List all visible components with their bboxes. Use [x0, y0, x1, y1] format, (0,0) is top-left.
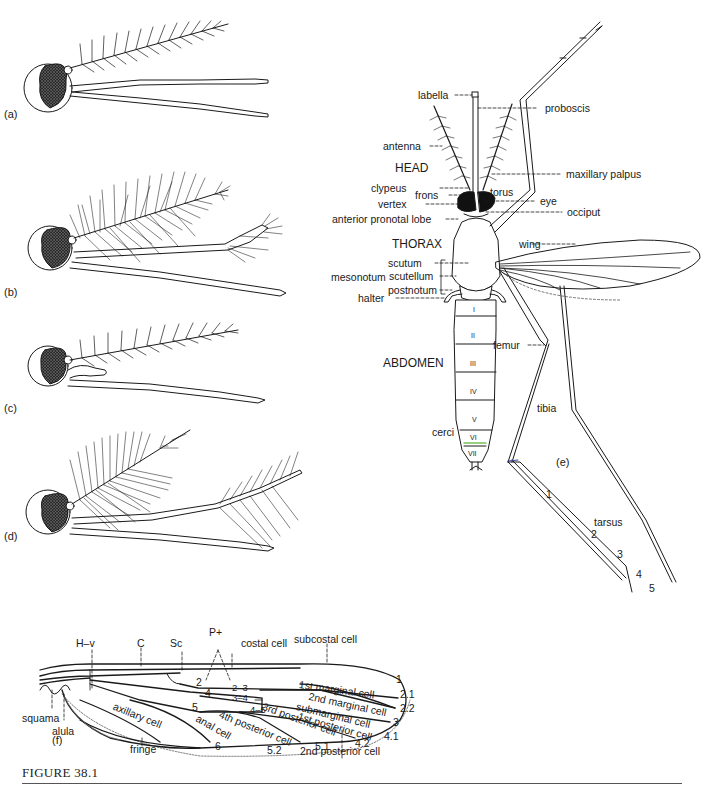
label-labella: labella — [418, 89, 448, 101]
abdominal-segment-7: VII — [468, 448, 477, 460]
label-torus: torus — [490, 186, 513, 198]
section-head: HEAD — [395, 162, 428, 174]
panel-a-head — [24, 21, 268, 117]
panel-label-b: (b) — [4, 286, 17, 298]
abdominal-segment-3: III — [470, 358, 476, 370]
vein-5-2: 5.2 — [267, 744, 282, 756]
label-proboscis: proboscis — [545, 102, 590, 114]
vein-3-4: 3–4 — [232, 692, 248, 704]
section-thorax: THORAX — [392, 238, 442, 250]
label-p-plus: P+ — [209, 626, 222, 638]
label-mesonotum: mesonotum — [331, 271, 386, 283]
label-sc: Sc — [170, 637, 182, 649]
label-scutellum: scutellum — [389, 270, 433, 282]
panel-c-head — [28, 323, 265, 403]
vein-6: 6 — [215, 740, 221, 752]
tarsal-segment-5: 5 — [649, 582, 655, 594]
label-frons: frons — [415, 189, 438, 201]
vein-2: 2 — [196, 676, 202, 688]
panel-d-head — [26, 430, 302, 551]
label-maxillary-palpus: maxillary palpus — [566, 168, 641, 180]
abdominal-segment-1: I — [473, 304, 475, 316]
vein-2-1: 2.1 — [400, 688, 415, 700]
vein-4-1: 4.1 — [384, 730, 399, 742]
label-cerci: cerci — [432, 426, 454, 438]
figure-artwork — [0, 0, 702, 794]
figure-canvas: (a) (b) (c) (d) (e) (f) labella probosci… — [0, 0, 702, 794]
panel-label-e: (e) — [556, 456, 569, 468]
label-postnotum: postnotum — [388, 284, 437, 296]
abdominal-segment-6: VI — [470, 432, 477, 444]
label-femur: femur — [493, 339, 520, 351]
caption-rule — [22, 783, 682, 784]
vein-5: 5 — [192, 701, 198, 713]
label-subcostal-cell: subcostal cell — [294, 633, 357, 645]
label-eye: eye — [540, 195, 557, 207]
label-wing: wing — [519, 238, 541, 250]
label-antenna: antenna — [383, 140, 421, 152]
vein-2-2: 2.2 — [400, 702, 415, 714]
label-vertex: vertex — [378, 198, 407, 210]
abdominal-segment-5: V — [472, 414, 477, 426]
label-scutum: scutum — [388, 257, 422, 269]
label-occiput: occiput — [567, 206, 600, 218]
mesonotum-bracket — [441, 260, 445, 294]
label-squama: squama — [22, 712, 59, 724]
tarsal-segment-3: 3 — [617, 548, 623, 560]
tarsal-segment-4: 4 — [636, 568, 642, 580]
section-abdomen: ABDOMEN — [383, 357, 444, 369]
panel-label-c: (c) — [4, 402, 17, 414]
label-halter: halter — [358, 292, 384, 304]
label-anterior-pronotal-lobe: anterior pronotal lobe — [332, 213, 431, 225]
panel-label-a: (a) — [4, 108, 17, 120]
tarsal-segment-1: 1 — [546, 488, 552, 500]
vein-1: 1 — [396, 673, 402, 685]
abdominal-segment-4: IV — [470, 386, 477, 398]
abdominal-segment-2: II — [471, 330, 475, 342]
figure-caption: FIGURE 38.1 — [22, 765, 98, 781]
label-tibia: tibia — [537, 402, 556, 414]
label-clypeus: clypeus — [371, 182, 407, 194]
label-c: C — [137, 637, 145, 649]
label-second-posterior-cell: 2nd posterior cell — [300, 745, 380, 757]
vein-4: 4 — [205, 687, 211, 699]
label-alula: alula — [52, 725, 74, 737]
panel-b-head — [28, 172, 286, 296]
panel-label-d: (d) — [4, 530, 17, 542]
tarsal-segment-2: 2 — [591, 528, 597, 540]
label-h-v: H–v — [76, 637, 95, 649]
label-fringe: fringe — [130, 743, 156, 755]
vein-3: 3 — [393, 716, 399, 728]
label-tarsus: tarsus — [594, 516, 623, 528]
label-costal-cell: costal cell — [241, 637, 287, 649]
